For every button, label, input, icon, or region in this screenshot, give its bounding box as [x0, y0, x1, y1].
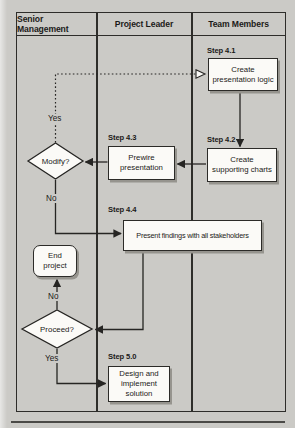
edge-label-modify-yes: Yes [47, 114, 62, 123]
edge-label-modify-no: No [45, 194, 57, 203]
step-label-5-0: Step 5.0 [108, 352, 136, 361]
step-label-4-1: Step 4.1 [207, 46, 235, 55]
flow-box-text-line: Design and [119, 369, 158, 379]
decision-modify-label: Modify? [30, 154, 81, 168]
flow-box-end-project: End project [33, 245, 77, 277]
flow-box-text-line: implement [121, 379, 157, 389]
step-label-4-4: Step 4.4 [108, 205, 136, 214]
flow-box-create-presentation-logic: Create presentation logic [208, 58, 278, 91]
flow-box-text-line: presentation [120, 163, 163, 173]
flow-box-text-line: solution [126, 389, 153, 399]
flow-box-text-line: supporting charts [212, 165, 272, 175]
flow-box-text-line: Create [231, 65, 254, 75]
edge-label-proceed-no: No [47, 292, 59, 301]
edge-label-proceed-yes: Yes [44, 354, 59, 363]
flow-box-text-line: End [48, 251, 62, 261]
flow-box-text-line: Create [230, 155, 253, 165]
connector-proceed-yes-to-design-solution [57, 349, 106, 384]
flow-box-present-findings: Present findings with all stakeholders [123, 220, 262, 251]
step-label-4-2: Step 4.2 [207, 135, 235, 144]
connector-present-findings-to-proceed [96, 252, 144, 330]
open-arrowhead-icon [196, 70, 205, 78]
flow-box-create-supporting-charts: Create supporting charts [207, 148, 277, 182]
flow-box-text-line: Present findings with all stakeholders [136, 231, 248, 240]
step-label-4-3: Step 4.3 [108, 133, 136, 142]
flow-box-text-line: Prewire [128, 153, 154, 163]
flow-box-design-implement-solution: Design and implement solution [108, 366, 170, 402]
bottom-rule [11, 421, 285, 423]
flow-box-text-line: project [43, 261, 66, 271]
decision-proceed-label: Proceed? [24, 322, 90, 336]
flow-box-text-line: presentation logic [212, 75, 273, 85]
flow-box-prewire-presentation: Prewire presentation [108, 146, 175, 180]
flowchart-page: Senior Management Project Leader Team Me… [0, 0, 295, 428]
